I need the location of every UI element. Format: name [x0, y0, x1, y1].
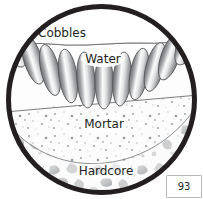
figure-container: Cobbles Water Mortar Hardcore 93: [0, 0, 203, 199]
label-water: Water: [85, 52, 121, 66]
label-mortar: Mortar: [84, 117, 124, 131]
circle-interior: Cobbles Water Mortar Hardcore: [0, 0, 203, 199]
page-number-text: 93: [178, 181, 191, 192]
label-hardcore: Hardcore: [79, 164, 134, 178]
cross-section-diagram: Cobbles Water Mortar Hardcore: [0, 0, 203, 199]
page-number-badge: 93: [166, 175, 202, 198]
